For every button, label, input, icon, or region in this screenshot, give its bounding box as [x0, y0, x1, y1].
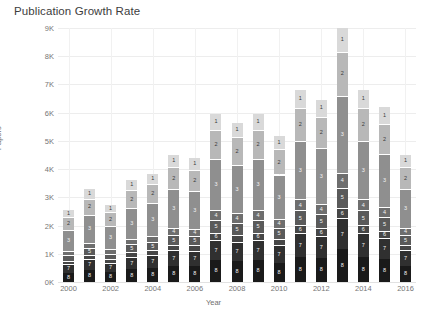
- bar-segment[interactable]: 1: [316, 100, 327, 117]
- bar-segment[interactable]: [147, 250, 158, 255]
- bar-segment[interactable]: 1: [358, 90, 369, 108]
- bar-segment[interactable]: 7: [168, 250, 179, 266]
- bar-segment[interactable]: 3: [253, 159, 264, 210]
- bar-segment[interactable]: 1: [400, 155, 411, 167]
- bar-segment[interactable]: 3: [400, 189, 411, 228]
- bar-segment[interactable]: 7: [210, 240, 221, 261]
- bar-segment[interactable]: 7: [274, 245, 285, 263]
- bar-segment[interactable]: 3: [295, 141, 306, 199]
- bar-segment[interactable]: 2: [274, 149, 285, 174]
- bar-segment[interactable]: 2: [168, 167, 179, 189]
- bar-segment[interactable]: [63, 251, 74, 255]
- bar-segment[interactable]: 7: [105, 263, 116, 272]
- bar-segment[interactable]: 1: [379, 107, 390, 123]
- bar-column[interactable]: 8754321: [232, 123, 243, 282]
- bar-segment[interactable]: 5: [232, 223, 243, 235]
- bar-segment[interactable]: 7: [232, 242, 243, 261]
- bar-segment[interactable]: 4: [295, 199, 306, 210]
- bar-segment[interactable]: 7: [379, 238, 390, 259]
- bar-column[interactable]: 8754321: [168, 155, 179, 282]
- bar-segment[interactable]: 3: [189, 191, 200, 229]
- bar-segment[interactable]: 4: [232, 213, 243, 222]
- bar-segment[interactable]: 7: [147, 255, 158, 268]
- bar-segment[interactable]: 2: [232, 137, 243, 165]
- bar-segment[interactable]: [84, 243, 95, 248]
- bar-column[interactable]: 87654321: [253, 114, 264, 282]
- bar-segment[interactable]: 8: [379, 259, 390, 282]
- bar-segment[interactable]: 8: [274, 263, 285, 282]
- bar-segment[interactable]: [147, 236, 158, 242]
- bar-segment[interactable]: 3: [126, 208, 137, 239]
- bar-segment[interactable]: 2: [63, 217, 74, 229]
- bar-segment[interactable]: [189, 245, 200, 250]
- bar-segment[interactable]: 4: [379, 207, 390, 217]
- bar-segment[interactable]: 1: [232, 123, 243, 138]
- bar-segment[interactable]: 5: [358, 210, 369, 225]
- bar-segment[interactable]: [168, 245, 179, 250]
- bar-segment[interactable]: 6: [316, 228, 327, 236]
- bar-segment[interactable]: 2: [84, 199, 95, 215]
- bar-column[interactable]: 8754321: [400, 155, 411, 282]
- bar-segment[interactable]: 4: [316, 204, 327, 214]
- bar-segment[interactable]: 5: [168, 235, 179, 245]
- bar-segment[interactable]: [126, 239, 137, 245]
- bar-segment[interactable]: 3: [274, 175, 285, 220]
- bar-segment[interactable]: 5: [316, 214, 327, 228]
- bar-column[interactable]: 8754321: [189, 158, 200, 282]
- bar-column[interactable]: 8754321: [274, 136, 285, 282]
- bar-segment[interactable]: 4: [168, 228, 179, 235]
- bar-segment[interactable]: 2: [105, 212, 116, 225]
- bar-segment[interactable]: 5: [379, 217, 390, 231]
- bar-segment[interactable]: 2: [358, 108, 369, 141]
- bar-segment[interactable]: 8: [168, 266, 179, 282]
- bar-segment[interactable]: 5: [210, 220, 221, 233]
- bar-column[interactable]: 875321: [126, 180, 137, 282]
- bar-segment[interactable]: [105, 249, 116, 254]
- bar-segment[interactable]: 4: [210, 210, 221, 220]
- bar-segment[interactable]: 3: [316, 148, 327, 204]
- bar-segment[interactable]: 4: [400, 228, 411, 235]
- bar-segment[interactable]: 2: [147, 184, 158, 203]
- bar-segment[interactable]: [105, 254, 116, 260]
- bar-segment[interactable]: 6: [379, 231, 390, 238]
- bar-segment[interactable]: 7: [316, 236, 327, 258]
- bar-segment[interactable]: 7: [295, 233, 306, 257]
- bar-segment[interactable]: 5: [189, 236, 200, 246]
- bar-column[interactable]: 87654321: [210, 114, 221, 282]
- bar-column[interactable]: 875321: [84, 189, 95, 282]
- bar-segment[interactable]: 8: [337, 249, 348, 282]
- bar-segment[interactable]: 2: [253, 130, 264, 159]
- bar-segment[interactable]: 8: [126, 269, 137, 282]
- bar-segment[interactable]: 2: [210, 130, 221, 159]
- bar-segment[interactable]: 2: [316, 117, 327, 149]
- bar-segment[interactable]: 1: [274, 136, 285, 150]
- bar-segment[interactable]: [105, 259, 116, 262]
- bar-segment[interactable]: 1: [105, 205, 116, 213]
- bar-segment[interactable]: 2: [337, 52, 348, 96]
- bar-segment[interactable]: 3: [232, 165, 243, 214]
- bar-segment[interactable]: 6: [337, 208, 348, 219]
- bar-segment[interactable]: 3: [379, 154, 390, 207]
- bar-segment[interactable]: 1: [337, 28, 348, 52]
- bar-segment[interactable]: [232, 235, 243, 242]
- bar-segment[interactable]: 7: [337, 218, 348, 249]
- bar-segment[interactable]: 8: [84, 270, 95, 282]
- bar-segment[interactable]: 3: [105, 226, 116, 249]
- bar-segment[interactable]: 5: [295, 210, 306, 225]
- bar-column[interactable]: 875321: [147, 174, 158, 282]
- bar-segment[interactable]: 8: [316, 258, 327, 282]
- bar-segment[interactable]: 2: [189, 170, 200, 191]
- bar-segment[interactable]: 5: [126, 244, 137, 252]
- bar-segment[interactable]: 4: [253, 210, 264, 220]
- bar-segment[interactable]: 8: [63, 273, 74, 282]
- bar-segment[interactable]: 8: [253, 260, 264, 282]
- bar-segment[interactable]: 8: [358, 257, 369, 282]
- bar-segment[interactable]: 8: [147, 268, 158, 282]
- bar-segment[interactable]: [126, 252, 137, 256]
- bar-segment[interactable]: 6: [210, 233, 221, 240]
- bar-segment[interactable]: 5: [337, 188, 348, 208]
- bar-segment[interactable]: 8: [295, 257, 306, 282]
- bar-segment[interactable]: 6: [253, 233, 264, 240]
- bar-column[interactable]: 87321: [105, 205, 116, 282]
- bar-segment[interactable]: [84, 255, 95, 259]
